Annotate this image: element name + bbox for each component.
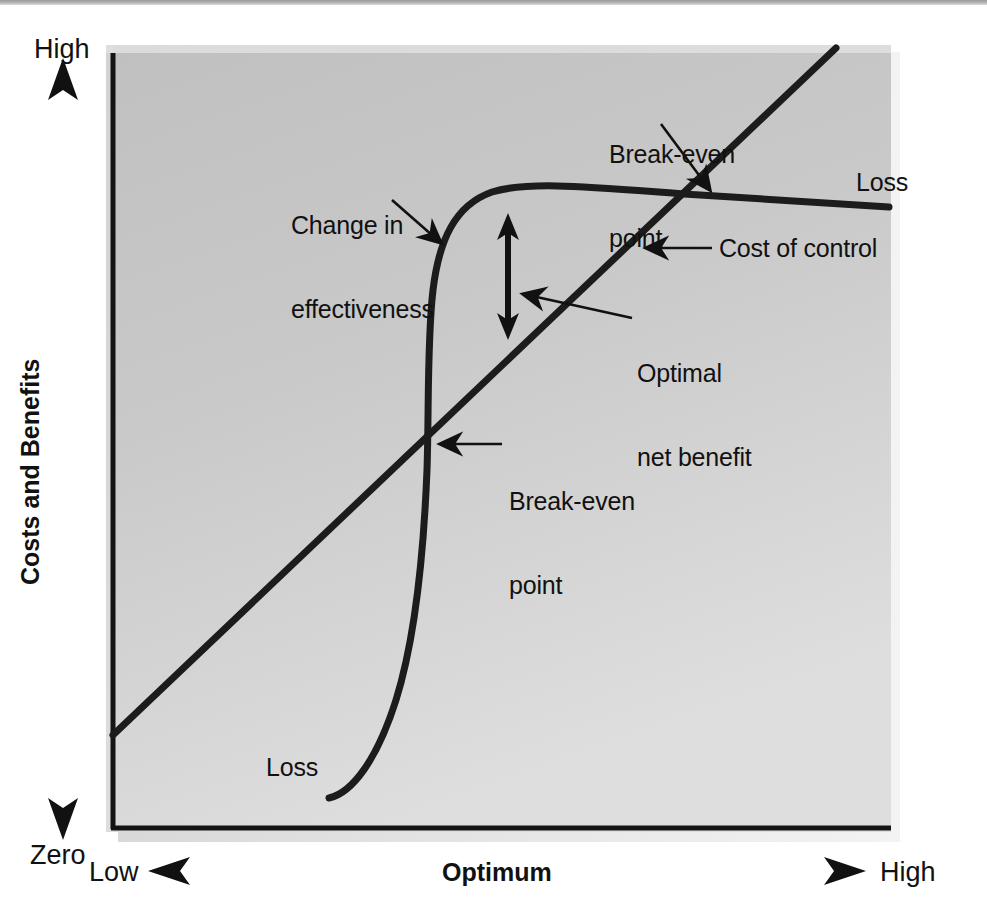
annotation-break-even-lower-line2: point [509,571,635,599]
y-axis-bottom-label: Zero [30,840,86,870]
y-axis-top-label: High [34,34,90,64]
annotation-break-even-lower-line1: Break-even [509,487,635,515]
annotation-break-even-upper-line1: Break-even [609,140,735,168]
annotation-optimal-net-benefit-line2: net benefit [637,443,752,471]
y-axis-arrow [48,58,78,840]
x-axis-right-label: High [880,857,936,887]
figure-container: Change in effectiveness Break-even point… [0,0,987,910]
annotation-break-even-point-upper: Break-even point [609,84,735,308]
annotation-change-in-effectiveness: Change in effectiveness [291,155,434,379]
annotation-break-even-upper-line2: point [609,224,735,252]
annotation-optimal-net-benefit: Optimal net benefit [637,303,752,527]
x-axis-title: Optimum [442,858,552,886]
chart-canvas [0,0,987,910]
annotation-break-even-point-lower: Break-even point [509,431,635,655]
annotation-change-in-effectiveness-line1: Change in [291,211,434,239]
x-axis-left-label: Low [89,857,139,887]
annotation-loss-bottom-left: Loss [266,753,318,781]
top-rule-divider [0,0,987,5]
plot-panel [106,45,891,832]
y-axis-title: Costs and Benefits [16,359,45,585]
annotation-optimal-net-benefit-line1: Optimal [637,359,752,387]
annotation-change-in-effectiveness-line2: effectiveness [291,295,434,323]
annotation-loss-top-right: Loss [856,168,908,196]
annotation-cost-of-control: Cost of control [719,234,877,262]
